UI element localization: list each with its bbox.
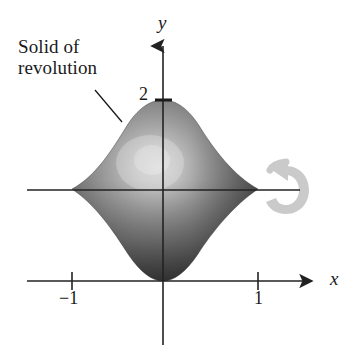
figure-container: Solid of revolution y x 2 −1 1 — [0, 0, 353, 355]
rotation-arrow — [266, 160, 309, 214]
x-tick-label-minus-one: −1 — [59, 288, 78, 308]
annotation-solid-of-revolution: Solid of revolution — [18, 36, 97, 79]
axis-label-x: x — [330, 268, 338, 289]
leader-line — [95, 90, 122, 122]
y-tick-label-2: 2 — [139, 84, 148, 104]
solid-body — [60, 95, 270, 290]
x-tick-label-one: 1 — [254, 288, 263, 308]
axis-label-y: y — [158, 12, 166, 33]
